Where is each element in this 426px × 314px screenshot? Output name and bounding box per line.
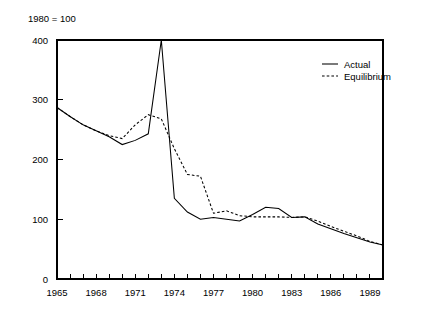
index-line-chart: 1980 = 100 0100200300400 196519681971197… [0,0,426,314]
plot-border [57,40,383,279]
chart-note: 1980 = 100 [28,13,76,24]
x-tick-label: 1989 [359,287,380,298]
x-tick-label: 1986 [320,287,341,298]
x-axis: 196519681971197419771980198319861989 [46,274,383,298]
legend-label-actual: Actual [344,59,370,70]
series-line-equilibrium [57,108,383,245]
x-tick-label: 1965 [46,287,67,298]
x-tick-label: 1974 [164,287,185,298]
chart-legend: ActualEquilibrium [322,59,391,82]
x-tick-label: 1977 [203,287,224,298]
chart-figure: 1980 = 100 0100200300400 196519681971197… [0,0,426,314]
y-tick-label: 300 [32,94,48,105]
legend-label-equilibrium: Equilibrium [344,71,391,82]
plot-frame [57,40,383,279]
y-tick-label: 0 [43,274,48,285]
y-tick-label: 400 [32,35,48,46]
y-tick-label: 100 [32,214,48,225]
series-line-actual [57,40,383,245]
x-tick-label: 1983 [281,287,302,298]
y-axis: 0100200300400 [32,35,63,285]
x-tick-label: 1968 [86,287,107,298]
data-series-group [57,40,383,245]
x-tick-label: 1980 [242,287,263,298]
x-tick-label: 1971 [125,287,146,298]
y-tick-label: 200 [32,154,48,165]
